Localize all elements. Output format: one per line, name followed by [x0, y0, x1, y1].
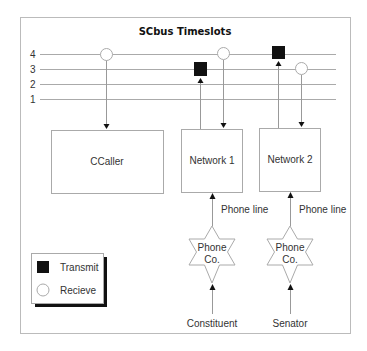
legend: Transmit Recieve: [32, 254, 108, 308]
phoneco1-label-line1: Phone: [198, 242, 227, 253]
timeslot-label-2: 2: [30, 79, 36, 90]
receive-circle-icon: [218, 48, 230, 60]
scbus-diagram: SCbus Timeslots 4 3 2 1 CCaller Network …: [0, 0, 367, 351]
timeslot-label-4: 4: [30, 49, 36, 60]
receive-circle-icon: [101, 49, 113, 61]
receive-circle-icon: [37, 284, 49, 296]
timeslot-label-1: 1: [30, 94, 36, 105]
phone-line-label-1: Phone line: [221, 204, 269, 215]
network2-label: Network 2: [267, 154, 312, 165]
legend-receive-label: Recieve: [60, 285, 97, 296]
diagram-title: SCbus Timeslots: [139, 26, 232, 37]
timeslot-label-3: 3: [30, 64, 36, 75]
phoneco2-label-line2: Co.: [282, 254, 298, 265]
phone-line-label-2: Phone line: [299, 204, 347, 215]
transmit-square-icon: [272, 46, 285, 59]
transmit-square-icon: [37, 261, 49, 273]
ccaller-label: CCaller: [90, 156, 124, 167]
legend-transmit-label: Transmit: [60, 262, 99, 273]
constituent-label: Constituent: [187, 318, 238, 329]
phoneco1-label-line2: Co.: [204, 254, 220, 265]
transmit-square-icon: [194, 62, 207, 76]
receive-circle-icon: [296, 63, 308, 75]
phoneco2-label-line1: Phone: [276, 242, 305, 253]
network1-label: Network 1: [189, 155, 234, 166]
senator-label: Senator: [272, 318, 308, 329]
